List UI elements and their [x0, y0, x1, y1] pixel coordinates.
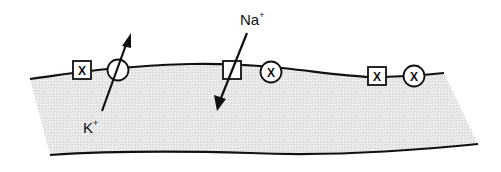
x-mark-icon: X [410, 70, 418, 84]
circle-channel-blocked-1: X [261, 62, 282, 83]
x-mark-icon: X [373, 70, 381, 84]
membrane-diagram: X X X X [0, 0, 501, 172]
sodium-label-charge: + [259, 10, 264, 20]
potassium-label-base: K [83, 119, 93, 136]
x-mark-icon: X [267, 66, 275, 80]
square-channel-blocked-2: X [368, 67, 386, 85]
sodium-label: Na+ [240, 12, 264, 27]
sodium-label-base: Na [240, 11, 259, 28]
x-mark-icon: X [78, 64, 86, 78]
square-channel-blocked-1: X [73, 61, 91, 79]
potassium-label-charge: + [93, 118, 98, 128]
potassium-label: K+ [83, 120, 98, 135]
circle-channel-blocked-2: X [404, 66, 425, 87]
arrowhead-icon [122, 33, 131, 48]
